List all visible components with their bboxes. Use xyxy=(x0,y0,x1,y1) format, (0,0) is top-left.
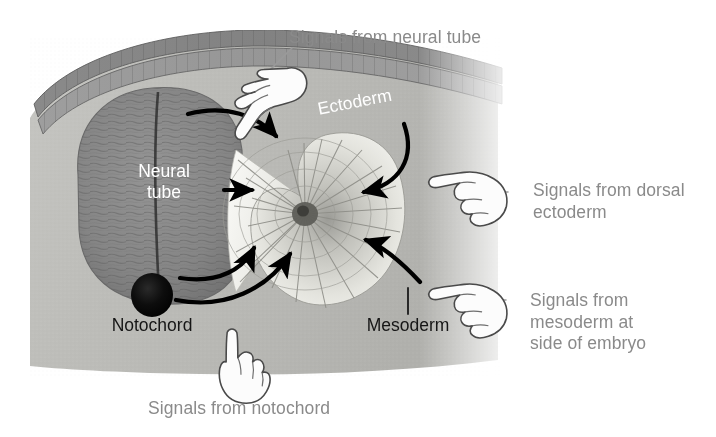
embryology-figure: Signals from neural tube Signals from do… xyxy=(0,0,716,437)
label-notochord: Notochord xyxy=(86,315,218,335)
notochord-structure xyxy=(131,273,173,317)
callout-dorsal-ectoderm-signal: Signals from dorsal ectoderm xyxy=(533,180,685,223)
callout-mesoderm-signal: Signals from mesoderm at side of embryo xyxy=(530,290,646,355)
label-mesoderm: Mesoderm xyxy=(352,315,464,335)
label-neural-tube: Neural tube xyxy=(118,161,210,203)
callout-notochord-signal: Signals from notochord xyxy=(148,398,330,420)
callout-neural-tube-signal: Signals from neural tube xyxy=(289,27,481,49)
somite-core-center xyxy=(297,206,309,217)
